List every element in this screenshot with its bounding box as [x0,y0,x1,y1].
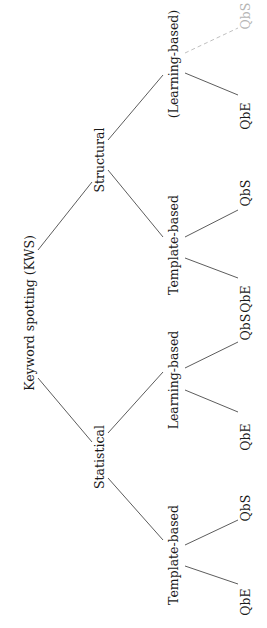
node-stat-template-based: Template-based [166,505,181,605]
edge-struct-learning-qbs-dashed [185,28,238,53]
edge-struct-template-qbs [185,210,238,237]
node-structural: Structural [92,127,107,192]
edge-stat-learning-qbe [185,390,238,412]
edge-statistical-learning [108,372,163,433]
leaf-stat-learning-qbs: QbS [238,314,253,341]
edge-root-structural [38,182,92,250]
edge-struct-learning-qbe [185,73,238,95]
node-struct-template-based: Template-based [166,195,181,295]
node-statistical: Statistical [92,425,107,489]
edge-stat-template-qbe [185,566,238,584]
leaf-struct-learning-qbe: QbE [238,102,253,129]
tree-nodes: Keyword spotting (KWS) Statistical Struc… [22,3,253,616]
leaf-struct-template-qbe: QbE [238,285,253,312]
node-stat-learning-based: Learning-based [166,331,181,430]
leaf-stat-template-qbe: QbE [238,588,253,615]
edge-struct-template-qbe [185,258,238,278]
edge-stat-template-qbs [185,520,238,545]
edge-root-statistical [38,378,92,442]
node-root: Keyword spotting (KWS) [22,235,37,391]
leaf-struct-template-qbs: QbS [238,180,253,207]
leaf-stat-template-qbs: QbS [238,495,253,522]
kws-taxonomy-tree: Keyword spotting (KWS) Statistical Struc… [0,0,267,628]
edge-statistical-template [108,478,163,540]
node-struct-learning-based: (Learning-based) [166,10,181,118]
edge-structural-template [108,170,163,237]
tree-edges [38,28,238,584]
edge-structural-learning [108,75,163,140]
leaf-struct-learning-qbs-muted: QbS [238,3,253,30]
leaf-stat-learning-qbe: QbE [238,423,253,450]
edge-stat-learning-qbs [185,342,238,368]
